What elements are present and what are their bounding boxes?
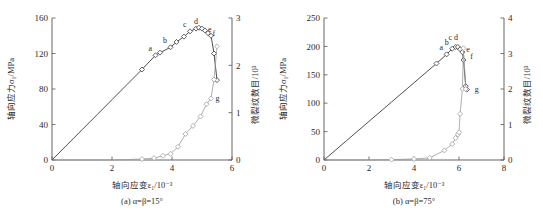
x-axis-title: 轴向应变ε₁/10⁻³ <box>383 180 444 190</box>
point-label-c: c <box>448 33 452 42</box>
y-tick-label-right: 2 <box>236 61 241 71</box>
curve-line <box>324 48 466 160</box>
data-point-marker <box>215 44 220 49</box>
point-label-a: a <box>439 43 443 52</box>
point-label-g: g <box>474 85 478 94</box>
chart-panel-b: 0501001502002500123402468abcdefg轴向应力σ₁/M… <box>272 0 543 223</box>
x-tick-label: 8 <box>501 163 506 173</box>
y-tick-label-right: 0 <box>508 155 513 165</box>
y-tick-label-right: 1 <box>236 108 241 118</box>
y-tick-label-right: 3 <box>236 13 241 23</box>
curve-line <box>324 47 467 160</box>
panel-caption: (b) α=β=75° <box>392 196 434 206</box>
point-label-f: f <box>213 29 216 38</box>
y-tick-label-left: 50 <box>311 127 321 137</box>
plot-panel-a: 0408012016001230246abcdefg轴向应力σ₁/MPa微裂纹数… <box>0 0 272 223</box>
series-crack-count <box>52 44 220 162</box>
point-label-e: e <box>208 25 212 34</box>
figure-container: 0408012016001230246abcdefg轴向应力σ₁/MPa微裂纹数… <box>0 0 543 223</box>
point-annotations: abcdefg <box>148 17 219 103</box>
x-axis-title: 轴向应变ε₁/10⁻³ <box>112 180 173 190</box>
curve-line <box>52 28 217 160</box>
y-tick-label-right: 4 <box>508 13 513 23</box>
y-tick-label-right: 0 <box>236 155 241 165</box>
point-label-c: c <box>183 20 187 29</box>
chart-panel-a: 0408012016001230246abcdefg轴向应力σ₁/MPa微裂纹数… <box>0 0 272 223</box>
x-tick-label: 4 <box>170 163 175 173</box>
y-tick-label-left: 0 <box>44 155 49 165</box>
data-point-marker <box>158 50 163 55</box>
curve-line <box>52 46 217 160</box>
data-point-marker <box>411 156 416 161</box>
x-tick-label: 0 <box>321 163 326 173</box>
x-tick-label: 4 <box>411 163 416 173</box>
point-label-g: g <box>216 94 220 103</box>
data-point-marker <box>389 157 394 162</box>
y-tick-label-right: 3 <box>508 49 513 59</box>
x-tick-label: 2 <box>110 163 115 173</box>
y-axis-right-ticks: 0123 <box>229 13 242 165</box>
y-tick-label-left: 120 <box>35 49 49 59</box>
y-tick-label-left: 200 <box>306 42 320 52</box>
axes <box>52 18 232 160</box>
data-point-marker <box>212 51 217 56</box>
series-stress-strain <box>52 25 220 160</box>
y-tick-label-left: 0 <box>315 155 320 165</box>
y-tick-label-left: 250 <box>306 13 320 23</box>
x-tick-label: 6 <box>456 163 461 173</box>
y-axis-left-title: 轴向应力σ₁/MPa <box>278 58 288 120</box>
point-label-b: b <box>163 36 167 45</box>
data-point-marker <box>457 111 462 116</box>
y-tick-label-left: 150 <box>306 70 320 80</box>
y-tick-label-left: 40 <box>39 120 49 130</box>
x-tick-label: 6 <box>230 163 235 173</box>
data-point-marker <box>140 157 145 162</box>
series-crack-count <box>324 46 468 162</box>
y-axis-right-title: 微裂纹数目/10³ <box>250 65 260 124</box>
point-label-f: f <box>470 52 473 61</box>
series-stress-strain <box>324 44 469 160</box>
point-annotations: abcdefg <box>439 33 478 94</box>
panel-caption: (a) α=β=15° <box>121 196 163 206</box>
y-axis-right-ticks: 01234 <box>500 13 513 165</box>
y-axis-left-title: 轴向应力σ₁/MPa <box>6 58 16 120</box>
y-tick-label-right: 2 <box>508 84 513 94</box>
x-tick-label: 0 <box>50 163 55 173</box>
y-axis-right-title: 微裂纹数目/10³ <box>522 65 532 124</box>
y-tick-label-right: 1 <box>508 120 513 130</box>
point-label-d: d <box>454 33 458 42</box>
point-label-a: a <box>148 44 152 53</box>
point-label-d: d <box>194 17 198 26</box>
x-tick-label: 2 <box>366 163 371 173</box>
y-tick-label-left: 160 <box>35 13 49 23</box>
y-tick-label-left: 80 <box>39 84 49 94</box>
data-point-marker <box>161 153 166 158</box>
y-tick-label-left: 100 <box>306 98 320 108</box>
plot-panel-b: 0501001502002500123402468abcdefg轴向应力σ₁/M… <box>272 0 543 223</box>
